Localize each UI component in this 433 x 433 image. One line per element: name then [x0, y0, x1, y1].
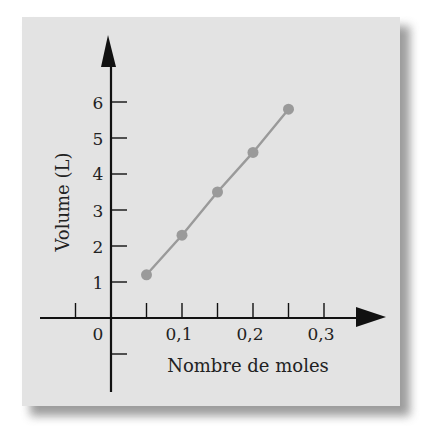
x-tick-label-0-2: 0,2 — [236, 324, 263, 344]
x-axis-arrow-icon — [356, 307, 386, 327]
data-series — [141, 104, 294, 281]
data-point — [283, 104, 294, 115]
x-origin-label: 0 — [93, 324, 104, 344]
ticks — [76, 102, 325, 354]
y-axis-arrow-icon — [101, 35, 116, 67]
labels: 0 0,1 0,2 0,3 1 2 3 4 5 6 Nombre de mole… — [52, 93, 335, 376]
y-axis-label: Volume (L) — [52, 153, 73, 253]
data-point — [248, 147, 259, 158]
data-point — [177, 230, 188, 241]
x-tick-label-0-3: 0,3 — [307, 324, 334, 344]
data-point — [212, 187, 223, 198]
x-axis-label: Nombre de moles — [167, 355, 329, 376]
y-tick-label-2: 2 — [93, 237, 104, 257]
y-tick-label-1: 1 — [93, 273, 104, 293]
y-tick-label-3: 3 — [93, 201, 104, 221]
y-tick-label-6: 6 — [93, 93, 104, 113]
y-tick-label-4: 4 — [93, 164, 104, 184]
chart-svg: 0 0,1 0,2 0,3 1 2 3 4 5 6 Nombre de mole… — [0, 0, 433, 433]
x-tick-label-0-1: 0,1 — [165, 324, 192, 344]
y-tick-label-5: 5 — [93, 129, 104, 149]
data-point — [141, 269, 152, 280]
